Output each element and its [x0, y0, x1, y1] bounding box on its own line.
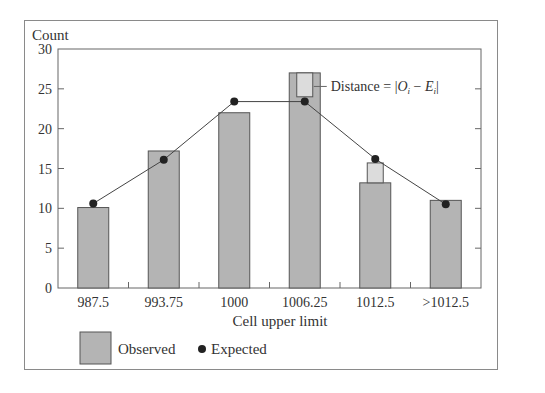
y-axis-title: Count — [32, 27, 70, 43]
x-tick-label: >1012.5 — [423, 295, 469, 310]
x-tick-label: 1012.5 — [356, 295, 395, 310]
expected-marker — [160, 156, 168, 164]
expected-marker — [230, 98, 238, 106]
bar-observed — [430, 200, 461, 288]
bar-observed — [148, 151, 179, 288]
y-tick-label: 10 — [38, 201, 52, 216]
x-tick-label: 1000 — [220, 295, 248, 310]
y-tick-label: 30 — [38, 42, 52, 57]
legend-observed-label: Observed — [118, 341, 176, 357]
y-tick-label: 15 — [38, 162, 52, 177]
expected-marker — [442, 200, 450, 208]
y-tick-label: 20 — [38, 122, 52, 137]
x-tick-label: 1006.25 — [282, 295, 328, 310]
bar-observed — [360, 183, 391, 288]
bar-observed — [219, 113, 250, 288]
distance-box — [297, 73, 313, 97]
expected-marker — [301, 98, 309, 106]
legend-expected-marker-icon — [198, 345, 206, 353]
y-tick-label: 25 — [38, 82, 52, 97]
x-axis-title: Cell upper limit — [233, 313, 329, 329]
x-tick-label: 987.5 — [78, 295, 110, 310]
expected-line — [93, 102, 446, 205]
legend-expected-label: Expected — [211, 341, 267, 357]
svg-text:Distance = |Oi − Ei|: Distance = |Oi − Ei| — [331, 79, 439, 96]
legend-observed-swatch — [80, 332, 111, 364]
legend: Observed Expected — [80, 332, 267, 364]
y-tick-label: 5 — [45, 241, 52, 256]
y-tick-label: 0 — [45, 281, 52, 296]
distance-annotation: Distance = |Oi − Ei| — [314, 79, 439, 96]
chart: Count 051015202530987.5993.7510001006.25… — [0, 0, 545, 393]
distance-box — [367, 163, 383, 183]
bar-observed — [78, 208, 109, 288]
expected-marker — [371, 155, 379, 163]
x-tick-label: 993.75 — [145, 295, 184, 310]
expected-marker — [89, 200, 97, 208]
